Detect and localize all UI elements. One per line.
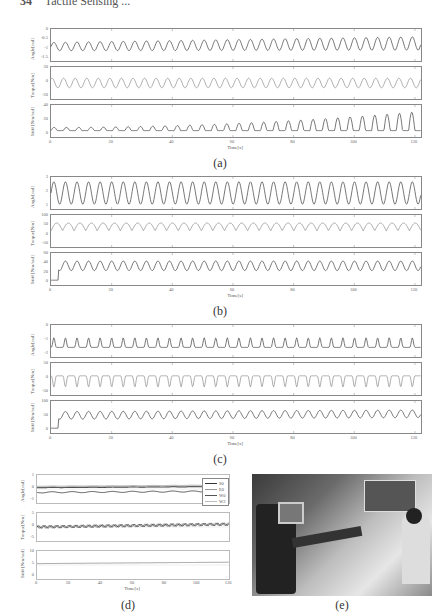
panel-c: Angle[rad]0-1-2Torque[Nm]500-50Stiff [Nm… <box>0 324 443 464</box>
data-line <box>51 338 421 348</box>
y-axis-label: Torque[Nm] <box>30 221 35 246</box>
x-tick: 120 <box>411 139 418 144</box>
y-tick: 40 <box>38 102 48 107</box>
x-tick: 40 <box>169 139 174 144</box>
y-tick: 0 <box>38 231 48 236</box>
subplot-d-0 <box>36 474 230 504</box>
legend-swatch <box>205 483 217 484</box>
y-tick: 100 <box>38 212 48 217</box>
y-axis-label: Stiff [Nm/rad] <box>30 255 35 284</box>
x-tick: 60 <box>130 580 135 585</box>
subplot-d-2 <box>36 550 230 580</box>
x-tick: 20 <box>108 139 113 144</box>
y-tick: 0 <box>38 374 48 379</box>
y-tick: 1 <box>38 202 48 207</box>
x-tick: 100 <box>350 287 357 292</box>
y-tick: 20 <box>38 116 48 121</box>
subplot-d-1 <box>36 512 230 542</box>
photo-robot-arm <box>292 526 363 548</box>
panel-d: Angle[rad]10-1Torque[Nm]50-5Stiff [Nm/ra… <box>0 470 240 616</box>
x-axis-label: Time[s] <box>227 441 243 446</box>
subplot-torquenm <box>50 362 422 396</box>
y-axis-label: Angle[rad] <box>30 334 35 356</box>
y-tick: 0 <box>38 278 48 283</box>
x-tick: 100 <box>350 435 357 440</box>
data-line <box>51 261 421 280</box>
x-tick: 80 <box>290 287 295 292</box>
y-tick: 0 <box>24 522 34 527</box>
y-tick: 60 <box>38 250 48 255</box>
y-tick: 20 <box>38 269 48 274</box>
x-tick: 80 <box>290 139 295 144</box>
y-tick: 20 <box>38 64 48 69</box>
x-tick: 100 <box>350 139 357 144</box>
x-tick: 0 <box>35 580 37 585</box>
data-line <box>51 37 421 51</box>
y-tick: 40 <box>38 259 48 264</box>
legend-swatch <box>205 501 217 502</box>
legend-label: S0 <box>219 481 224 486</box>
y-tick: 3 <box>38 174 48 179</box>
x-tick: 100 <box>193 580 200 585</box>
y-tick: 0 <box>38 322 48 327</box>
y-tick: 100 <box>38 398 48 403</box>
x-tick: 60 <box>230 435 235 440</box>
y-tick: 5 <box>24 510 34 515</box>
y-tick: 0 <box>24 484 34 489</box>
y-tick: 50 <box>38 412 48 417</box>
legend-label: W2 <box>219 499 226 504</box>
y-tick: 50 <box>38 221 48 226</box>
y-tick: 50 <box>38 360 48 365</box>
x-tick: 20 <box>108 287 113 292</box>
y-tick: 0 <box>38 78 48 83</box>
x-tick: 40 <box>169 435 174 440</box>
x-axis-label: Time[s] <box>124 586 140 591</box>
x-tick: 120 <box>411 435 418 440</box>
caption-b: (b) <box>213 304 227 319</box>
legend-label: W0 <box>219 493 226 498</box>
x-tick: 0 <box>49 139 51 144</box>
subplot-torquenm <box>50 66 422 100</box>
subplot-stiffnmrad <box>50 104 422 138</box>
y-tick: -1 <box>24 496 34 501</box>
x-tick: 20 <box>108 435 113 440</box>
y-tick: 0 <box>24 572 34 577</box>
x-tick: 20 <box>66 580 71 585</box>
legend-swatch <box>205 495 217 496</box>
x-tick: 60 <box>230 287 235 292</box>
y-axis-label: Torque[Nm] <box>30 73 35 98</box>
data-line <box>51 223 421 231</box>
data-line <box>51 78 421 88</box>
y-tick: -0.5 <box>38 35 48 40</box>
x-tick: 120 <box>225 580 232 585</box>
caption-e: (e) <box>335 598 348 613</box>
x-tick: 40 <box>169 287 174 292</box>
y-tick: -2 <box>38 350 48 355</box>
y-tick: -5 <box>24 534 34 539</box>
x-tick: 80 <box>290 435 295 440</box>
data-line <box>51 182 421 204</box>
subplot-stiffnmrad <box>50 400 422 434</box>
y-tick: -1 <box>38 336 48 341</box>
x-axis-label: Time[s] <box>227 145 243 150</box>
photo-person-head <box>406 508 422 524</box>
data-line <box>51 112 421 130</box>
y-axis-label: Angle[rad] <box>30 38 35 60</box>
subplot-stiffnmrad <box>50 252 422 286</box>
legend-label: E0 <box>219 487 224 492</box>
subplot-anglerad <box>50 28 422 62</box>
x-tick: 80 <box>162 580 167 585</box>
caption-a: (a) <box>213 156 226 171</box>
subplot-torquenm <box>50 214 422 248</box>
legend-item: W2 <box>205 498 226 504</box>
y-tick: 0 <box>38 130 48 135</box>
photo-robot-screen <box>278 502 304 524</box>
y-tick: -1.5 <box>38 54 48 59</box>
caption-d: (d) <box>121 598 135 613</box>
data-line <box>51 410 421 428</box>
data-line <box>51 376 421 387</box>
x-tick: 120 <box>411 287 418 292</box>
x-tick: 0 <box>49 435 51 440</box>
caption-c: (c) <box>213 452 226 467</box>
panel-b: Angle[rad]321Torque[Nm]100500-50Stiff [N… <box>0 176 443 316</box>
